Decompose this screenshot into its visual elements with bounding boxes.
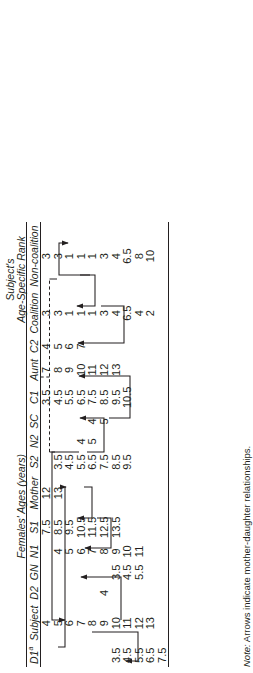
cell-s2 bbox=[157, 451, 169, 473]
cell-d1: 6.5 bbox=[145, 644, 157, 667]
cell-n1: 4 bbox=[52, 541, 64, 561]
col-header-d1-label: D1 bbox=[28, 651, 40, 664]
cell-sc bbox=[133, 411, 145, 432]
cell-c2: 4 bbox=[40, 337, 52, 356]
cell-n1 bbox=[145, 541, 157, 561]
cell-c1: 9.5 bbox=[110, 384, 122, 411]
cell-mother bbox=[87, 473, 99, 513]
cell-sc bbox=[75, 411, 87, 432]
cell-coalition: 3 bbox=[99, 290, 111, 337]
cell-mother: 12 bbox=[40, 473, 52, 513]
cell-sc bbox=[110, 411, 122, 432]
cell-coalition: 1 bbox=[64, 290, 76, 337]
cell-n1: 6 bbox=[75, 541, 87, 561]
cell-n2 bbox=[99, 432, 111, 451]
figure-note-prefix: Note: bbox=[241, 644, 249, 667]
table-row: 3.5103.5913.58.59.51344 bbox=[110, 222, 122, 667]
cell-d1 bbox=[52, 644, 64, 667]
cell-n2 bbox=[110, 432, 122, 451]
cell-noncoalition: 3 bbox=[52, 222, 64, 289]
cell-n2 bbox=[52, 432, 64, 451]
cell-s2: 9.5 bbox=[122, 451, 134, 473]
col-header-d1: D1a bbox=[27, 644, 40, 667]
cell-sc bbox=[122, 411, 134, 432]
col-header-d1-footnote: a bbox=[27, 647, 34, 651]
cell-n1: 11 bbox=[133, 541, 145, 561]
cell-d2 bbox=[40, 583, 52, 602]
cell-d1 bbox=[64, 644, 76, 667]
table-row: 7.5 bbox=[157, 222, 169, 667]
cell-aunt: 7 bbox=[40, 356, 52, 384]
rotated-page-stage: Females' Ages (years) Subject's Age-Spec… bbox=[0, 0, 249, 673]
cell-c1 bbox=[133, 384, 145, 411]
table-row: 94812.57.558.51233 bbox=[99, 222, 111, 667]
cell-d2 bbox=[87, 583, 99, 602]
cell-gn bbox=[87, 561, 99, 583]
table-figure: Females' Ages (years) Subject's Age-Spec… bbox=[0, 0, 249, 673]
cell-mother: 13 bbox=[52, 473, 64, 513]
cell-coalition: 3 bbox=[40, 290, 52, 337]
cell-subject: 10 bbox=[110, 603, 122, 644]
cell-c2: 7 bbox=[75, 337, 87, 356]
cell-gn bbox=[99, 561, 111, 583]
cell-s1: 12.5 bbox=[99, 513, 111, 541]
cell-d2 bbox=[157, 583, 169, 602]
table-row: 8711.56.5547.51111 bbox=[87, 222, 99, 667]
cell-subject bbox=[157, 603, 169, 644]
cell-s2 bbox=[145, 451, 157, 473]
cell-c2 bbox=[110, 337, 122, 356]
cell-n2 bbox=[133, 432, 145, 451]
table-row: 47.5123.57433 bbox=[40, 222, 52, 667]
group-header-subject-rank: Subject's Age-Specific Rank bbox=[5, 222, 27, 336]
cell-d1 bbox=[75, 644, 87, 667]
cell-sc bbox=[145, 411, 157, 432]
cell-n2 bbox=[40, 432, 52, 451]
cell-d1: 7.5 bbox=[157, 644, 169, 667]
cell-d1: 3.5 bbox=[110, 644, 122, 667]
cell-d2 bbox=[133, 583, 145, 602]
cell-n2 bbox=[122, 432, 134, 451]
cell-sc bbox=[52, 411, 64, 432]
cell-d2 bbox=[52, 583, 64, 602]
cell-coalition: 1 bbox=[87, 290, 99, 337]
table-row: 7610.55.546.510711 bbox=[75, 222, 87, 667]
cell-s1 bbox=[133, 513, 145, 541]
cell-noncoalition: 3 bbox=[99, 222, 111, 289]
cell-d1 bbox=[40, 644, 52, 667]
cell-gn bbox=[157, 561, 169, 583]
cell-noncoalition: 6.5 bbox=[122, 222, 134, 289]
cell-n2 bbox=[64, 432, 76, 451]
col-header-coalition: Coalition bbox=[27, 290, 40, 337]
figure-note-text: Arrows indicate mother-daughter relation… bbox=[241, 446, 249, 645]
cell-noncoalition: 1 bbox=[64, 222, 76, 289]
cell-noncoalition: 1 bbox=[87, 222, 99, 289]
col-header-noncoalition: Non-coalition bbox=[27, 222, 40, 289]
cell-d2 bbox=[64, 583, 76, 602]
cell-s2: 4.5 bbox=[64, 451, 76, 473]
cell-d1 bbox=[87, 644, 99, 667]
cell-mother bbox=[99, 473, 111, 513]
cell-c1 bbox=[145, 384, 157, 411]
cell-mother bbox=[64, 473, 76, 513]
cell-aunt: 9 bbox=[64, 356, 76, 384]
cell-n2: 4 bbox=[75, 432, 87, 451]
cell-n1 bbox=[157, 541, 169, 561]
column-header-row: D1a Subject D2 GN N1 S1 Mother S2 N2 SC … bbox=[27, 222, 40, 667]
cell-s2 bbox=[40, 451, 52, 473]
col-header-sc: SC bbox=[27, 411, 40, 432]
col-header-gn: GN bbox=[27, 561, 40, 583]
cell-n2 bbox=[157, 432, 169, 451]
cell-c1: 7.5 bbox=[87, 384, 99, 411]
col-header-d2: D2 bbox=[27, 583, 40, 602]
cell-gn bbox=[75, 561, 87, 583]
cell-noncoalition: 4 bbox=[110, 222, 122, 289]
group-spacer-8 bbox=[5, 356, 27, 384]
cell-mother bbox=[110, 473, 122, 513]
group-spacer-7 bbox=[5, 384, 27, 411]
cell-c2 bbox=[157, 337, 169, 356]
cell-s1: 7.5 bbox=[40, 513, 52, 541]
cell-d1 bbox=[99, 644, 111, 667]
cell-sc: 5 bbox=[99, 411, 111, 432]
cell-aunt: 11 bbox=[87, 356, 99, 384]
col-header-c1: C1 bbox=[27, 384, 40, 411]
